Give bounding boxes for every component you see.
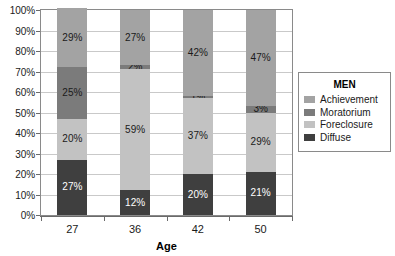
bar-segment-label: 1%: [191, 96, 205, 98]
bar-column[interactable]: 27%20%25%29%: [57, 10, 87, 215]
x-axis-tick-label: 50: [255, 223, 267, 235]
bar-segment-label: 29%: [251, 137, 271, 147]
legend-item[interactable]: Achievement: [304, 94, 385, 106]
y-axis-tick: [36, 92, 40, 93]
bar-segment[interactable]: 47%: [246, 10, 276, 106]
y-axis-tick-label: 90%: [15, 25, 35, 36]
x-axis-tick: [229, 216, 230, 221]
x-axis-tick-label: 27: [66, 223, 78, 235]
y-axis-tick: [36, 31, 40, 32]
y-axis-tick: [36, 10, 40, 11]
legend-item[interactable]: Moratorium: [304, 107, 385, 119]
bar-segment-label: 29%: [62, 33, 82, 43]
x-axis-title: Age: [40, 240, 293, 252]
bar-segment[interactable]: 42%: [183, 10, 213, 96]
y-axis-tick: [36, 215, 40, 216]
y-axis-tick-label: 70%: [15, 66, 35, 77]
bar-segment-label: 25%: [62, 88, 82, 98]
legend-item[interactable]: Diffuse: [304, 132, 385, 144]
y-axis-tick: [36, 72, 40, 73]
y-axis-tick-label: 50%: [15, 107, 35, 118]
bar-segment[interactable]: 2%: [120, 65, 150, 69]
bar-segment-label: 27%: [125, 33, 145, 43]
x-axis-tick: [41, 216, 42, 221]
y-axis-tick: [36, 154, 40, 155]
bar-column[interactable]: 20%37%1%42%: [183, 10, 213, 215]
x-axis-tick: [104, 216, 105, 221]
bar-segment-label: 2%: [128, 65, 142, 69]
bar-segment-label: 21%: [251, 188, 271, 198]
legend-swatch-icon: [304, 109, 315, 116]
bars-layer: 27%20%25%29%12%59%2%27%20%37%1%42%21%29%…: [41, 10, 292, 215]
stacked-bar-chart: 0%10%20%30%40%50%60%70%80%90%100% 27%20%…: [0, 0, 395, 256]
legend-swatch-icon: [304, 96, 315, 103]
bar-segment[interactable]: 20%: [57, 119, 87, 160]
bar-segment[interactable]: 21%: [246, 172, 276, 215]
legend-swatch-icon: [304, 134, 315, 141]
bar-segment-label: 37%: [188, 131, 208, 141]
bar-segment[interactable]: 25%: [57, 67, 87, 118]
bar-segment-label: 42%: [188, 48, 208, 58]
y-axis-tick: [36, 195, 40, 196]
legend-item-label: Achievement: [320, 94, 378, 106]
y-axis-tick-label: 40%: [15, 128, 35, 139]
bar-segment[interactable]: 1%: [183, 96, 213, 98]
legend-item-label: Foreclosure: [320, 119, 373, 131]
x-axis-tick: [167, 216, 168, 221]
bar-segment-label: 59%: [125, 125, 145, 135]
legend-item-label: Diffuse: [320, 132, 351, 144]
legend-title: MEN: [304, 79, 385, 90]
bar-segment-label: 20%: [62, 134, 82, 144]
bar-segment[interactable]: 59%: [120, 69, 150, 190]
bar-segment-label: 3%: [253, 106, 267, 112]
y-axis-tick: [36, 113, 40, 114]
legend-item[interactable]: Foreclosure: [304, 119, 385, 131]
y-axis-tick-label: 30%: [15, 148, 35, 159]
bar-segment[interactable]: 37%: [183, 98, 213, 174]
bar-segment[interactable]: 3%: [246, 106, 276, 112]
chart-legend: MEN AchievementMoratoriumForeclosureDiff…: [298, 72, 391, 152]
bar-segment[interactable]: 29%: [57, 8, 87, 67]
legend-item-label: Moratorium: [320, 107, 371, 119]
bar-segment-label: 47%: [251, 53, 271, 63]
x-axis-tick-label: 36: [129, 223, 141, 235]
bar-segment[interactable]: 27%: [120, 10, 150, 65]
bar-segment-label: 27%: [62, 182, 82, 192]
y-axis-tick: [36, 133, 40, 134]
legend-swatch-icon: [304, 121, 315, 128]
y-axis-tick: [36, 51, 40, 52]
y-axis-tick: [36, 174, 40, 175]
bar-segment[interactable]: 27%: [57, 160, 87, 215]
bar-column[interactable]: 21%29%3%47%: [246, 10, 276, 215]
y-axis-tick-label: 20%: [15, 169, 35, 180]
bar-segment-label: 12%: [125, 198, 145, 208]
y-axis-tick-label: 80%: [15, 46, 35, 57]
y-axis-tick-label: 100%: [10, 5, 35, 16]
y-axis-tick-label: 10%: [15, 189, 35, 200]
bar-segment-label: 20%: [188, 190, 208, 200]
x-axis-tick-label: 42: [192, 223, 204, 235]
bar-segment[interactable]: 12%: [120, 190, 150, 215]
bar-segment[interactable]: 29%: [246, 113, 276, 172]
y-axis-tick-label: 0%: [21, 210, 35, 221]
x-axis-tick: [292, 216, 293, 221]
bar-column[interactable]: 12%59%2%27%: [120, 10, 150, 215]
bar-segment[interactable]: 20%: [183, 174, 213, 215]
y-axis-tick-label: 60%: [15, 87, 35, 98]
y-axis: 0%10%20%30%40%50%60%70%80%90%100%: [0, 9, 35, 216]
